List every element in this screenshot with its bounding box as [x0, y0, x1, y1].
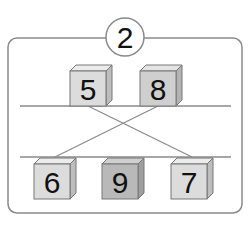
cube-top-1: 5 [70, 65, 112, 106]
badge-number: 2 [117, 21, 134, 54]
cube-bottom-1: 6 [34, 158, 76, 199]
puzzle-diagram: 2 5 8 6 9 7 [0, 0, 248, 240]
cube-bottom-2: 9 [102, 158, 144, 199]
puzzle-number-badge: 2 [106, 18, 144, 56]
cube-label: 6 [44, 166, 61, 199]
cube-top-2: 8 [140, 65, 182, 106]
cube-label: 7 [181, 166, 198, 199]
cube-label: 9 [112, 166, 129, 199]
cube-label: 5 [80, 73, 97, 106]
cube-bottom-3: 7 [171, 158, 213, 199]
cube-label: 8 [150, 73, 167, 106]
